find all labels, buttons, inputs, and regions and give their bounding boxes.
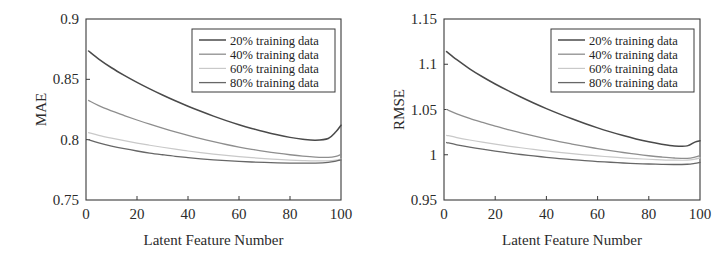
y-axis-title: MAE	[33, 93, 49, 126]
y-tick-label: 0.8	[60, 132, 79, 148]
x-tick-label: 80	[641, 206, 656, 222]
legend-label-3: 60% training data	[230, 62, 319, 76]
legend-label-1: 20% training data	[589, 34, 678, 48]
y-tick-label: 0.9	[60, 11, 79, 27]
legend-label-4: 80% training data	[230, 76, 319, 90]
x-tick-label: 80	[283, 206, 298, 222]
x-tick-label: 40	[539, 206, 554, 222]
x-tick-label: 20	[488, 206, 503, 222]
x-tick-label: 40	[181, 206, 196, 222]
x-tick-label: 0	[440, 206, 448, 222]
legend-label-3: 60% training data	[589, 62, 678, 76]
x-tick-label: 0	[82, 206, 90, 222]
y-tick-label: 0.95	[411, 192, 437, 208]
x-tick-label: 20	[130, 206, 145, 222]
legend-label-1: 20% training data	[230, 34, 319, 48]
y-tick-label: 0.75	[53, 192, 79, 208]
x-axis-title: Latent Feature Number	[144, 232, 284, 248]
legend-label-2: 40% training data	[589, 48, 678, 62]
series-line-4	[89, 140, 341, 164]
y-tick-label: 0.85	[53, 71, 79, 87]
figure-container: 0204060801000.750.80.850.9Latent Feature…	[0, 0, 724, 260]
plot-svg-left: 0204060801000.750.80.850.9Latent Feature…	[0, 0, 362, 260]
x-axis-title: Latent Feature Number	[502, 232, 642, 248]
y-tick-label: 1.1	[418, 56, 437, 72]
y-tick-label: 1	[430, 147, 438, 163]
chart-panel-left: 0204060801000.750.80.850.9Latent Feature…	[0, 0, 362, 260]
x-tick-label: 60	[590, 206, 605, 222]
chart-panel-right: 0204060801000.9511.051.11.15Latent Featu…	[362, 0, 724, 260]
y-tick-label: 1.05	[411, 102, 437, 118]
y-tick-label: 1.15	[411, 11, 437, 27]
y-axis-title: RMSE	[391, 89, 407, 130]
series-line-2	[447, 110, 700, 159]
legend-label-2: 40% training data	[230, 48, 319, 62]
legend-label-4: 80% training data	[589, 76, 678, 90]
x-tick-label: 100	[689, 206, 712, 222]
x-tick-label: 100	[330, 206, 353, 222]
x-tick-label: 60	[232, 206, 247, 222]
plot-svg-right: 0204060801000.9511.051.11.15Latent Featu…	[362, 0, 724, 260]
